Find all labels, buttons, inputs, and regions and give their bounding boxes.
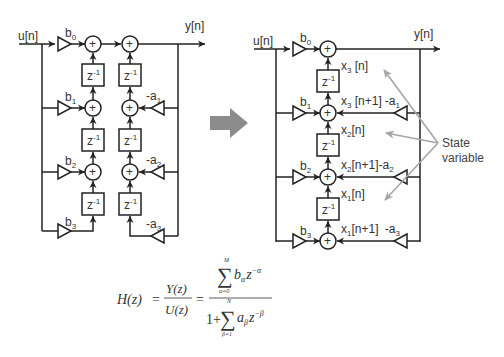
- delay-label: z-1: [124, 133, 138, 148]
- input-label: u[n]: [253, 34, 273, 48]
- plus-icon: +: [89, 37, 96, 51]
- svg-text:N: N: [226, 298, 232, 304]
- svg-text:aβz−β: aβz−β: [237, 309, 264, 327]
- formula-lhs: H(z): [116, 292, 142, 308]
- delay-label: z-1: [322, 202, 336, 217]
- gain-label-b3: b3: [300, 224, 312, 240]
- delay-label: z-1: [322, 138, 336, 153]
- plus-icon: +: [324, 170, 331, 184]
- state-label-x3n: x3 [n]: [341, 59, 368, 75]
- state-label-x3n1: x3 [n+1]-a1: [341, 94, 400, 110]
- state-label-x2n: x2[n]: [341, 123, 365, 139]
- delay-label: z-1: [124, 68, 138, 83]
- gain-label-a3: -a3: [146, 217, 162, 233]
- plus-icon: +: [126, 101, 133, 115]
- sum-icon: ∑: [220, 306, 236, 331]
- svg-text:bαz−α: bαz−α: [234, 266, 262, 284]
- delay-label: z-1: [322, 74, 336, 89]
- plus-icon: +: [126, 37, 133, 51]
- sum-icon: ∑: [217, 263, 233, 288]
- svg-text:α=0: α=0: [219, 288, 229, 294]
- delay-label: z-1: [87, 197, 101, 212]
- gain-label-a2: -a2: [146, 153, 162, 169]
- gain-label-b1: b1: [65, 90, 77, 106]
- gain-label-a1: -a1: [146, 89, 162, 105]
- right-arrow-icon: [210, 108, 248, 138]
- gain-label-b0: b0: [300, 31, 312, 47]
- delay-label: z-1: [87, 68, 101, 83]
- annotation-line1: State: [442, 136, 470, 150]
- gain-a2-triangle: [394, 170, 407, 184]
- svg-text:1+: 1+: [206, 312, 221, 327]
- plus-icon: +: [324, 106, 331, 120]
- gain-label-b2: b2: [300, 159, 312, 175]
- plus-icon: +: [126, 165, 133, 179]
- delay-label: z-1: [124, 197, 138, 212]
- left-labels: u[n] y[n] b0 b1 b2 b3 -a1 -a2 -a3 + + + …: [18, 19, 204, 233]
- input-label: u[n]: [18, 29, 38, 43]
- plus-icon: +: [89, 165, 96, 179]
- plus-icon: +: [324, 234, 331, 248]
- plus-icon: +: [89, 101, 96, 115]
- ratio-denominator: U(z): [165, 302, 188, 317]
- output-label: y[n]: [185, 19, 204, 33]
- annotation-line2: variable: [442, 151, 484, 165]
- state-variable-annotation: [384, 70, 438, 200]
- gain-label-b0: b0: [65, 26, 77, 42]
- state-label-x1n1: x1[n+1] -a3: [341, 222, 400, 238]
- left-block-diagram: [19, 36, 205, 243]
- gain-label-b3: b3: [65, 215, 77, 231]
- delay-label: z-1: [87, 133, 101, 148]
- plus-icon: +: [324, 42, 331, 56]
- gain-label-b1: b1: [300, 95, 312, 111]
- state-label-x2n1: x2[n+1]-a2: [341, 158, 394, 174]
- output-label: y[n]: [414, 27, 433, 41]
- svg-text:β=1: β=1: [221, 331, 232, 337]
- transfer-function-formula: H(z) = Y(z) U(z) = M ∑ α=0 bαz−α 1+ N ∑ …: [116, 257, 272, 337]
- diagram-canvas: u[n] y[n] b0 b1 b2 b3 -a1 -a2 -a3 + + + …: [0, 0, 504, 357]
- svg-text:=: =: [152, 292, 160, 307]
- gain-label-b2: b2: [65, 154, 77, 170]
- svg-text:=: =: [196, 292, 204, 307]
- ratio-numerator: Y(z): [166, 281, 187, 296]
- pointer-arrow-icon: [386, 133, 438, 143]
- state-label-x1n: x1[n]: [341, 187, 365, 203]
